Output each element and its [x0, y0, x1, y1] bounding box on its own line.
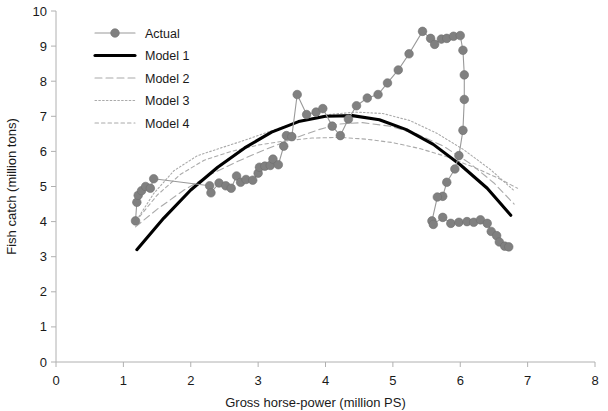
legend-marker	[111, 29, 120, 38]
data-point	[374, 90, 383, 99]
data-point	[456, 31, 465, 40]
legend-label: Model 2	[145, 72, 190, 86]
legend-item-model-4[interactable]: Model 4	[95, 117, 190, 131]
data-point	[433, 193, 442, 202]
data-point	[302, 110, 311, 119]
data-point	[336, 131, 345, 140]
data-point	[274, 160, 283, 169]
x-tick-label: 1	[120, 373, 127, 388]
data-point	[288, 132, 297, 141]
data-point	[418, 27, 427, 36]
data-point	[455, 218, 464, 227]
data-point	[383, 79, 392, 88]
data-point	[483, 219, 492, 228]
y-tick-label: 2	[40, 284, 47, 299]
data-point	[455, 151, 464, 160]
y-tick-label: 6	[40, 144, 47, 159]
legend-label: Actual	[145, 27, 180, 41]
x-tick-label: 7	[524, 373, 531, 388]
series-line	[136, 31, 509, 247]
data-point	[460, 71, 469, 80]
y-tick-label: 10	[33, 4, 47, 19]
x-axis-title: Gross horse-power (million PS)	[225, 395, 406, 410]
data-point	[352, 101, 361, 110]
y-tick-label: 0	[40, 355, 47, 370]
x-tick-label: 3	[255, 373, 262, 388]
data-point	[279, 142, 288, 151]
legend-item-actual[interactable]: Actual	[95, 27, 180, 41]
data-point	[149, 174, 158, 183]
data-point	[504, 243, 513, 252]
x-tick-label: 5	[389, 373, 396, 388]
y-tick-label: 4	[40, 214, 47, 229]
y-tick-label: 8	[40, 74, 47, 89]
data-point	[459, 46, 468, 55]
y-tick-label: 3	[40, 249, 47, 264]
data-point	[319, 104, 328, 113]
y-tick-label: 5	[40, 179, 47, 194]
chart-container: 012345678910012345678Gross horse-power (…	[0, 0, 608, 411]
data-point	[442, 178, 451, 187]
data-point	[146, 184, 155, 193]
scatter-line-chart: 012345678910012345678Gross horse-power (…	[0, 0, 608, 411]
data-point	[429, 220, 438, 229]
data-point	[438, 213, 447, 222]
data-point	[293, 90, 302, 99]
data-point	[227, 184, 236, 193]
data-point	[405, 50, 414, 59]
data-point	[447, 219, 456, 228]
data-point	[131, 217, 140, 226]
legend-label: Model 3	[145, 94, 190, 108]
legend-item-model-3[interactable]: Model 3	[95, 94, 190, 108]
series-model-1	[137, 116, 511, 250]
data-point	[460, 95, 469, 104]
y-tick-label: 9	[40, 39, 47, 54]
x-tick-label: 0	[52, 373, 59, 388]
legend-label: Model 1	[145, 49, 190, 63]
x-tick-label: 2	[187, 373, 194, 388]
data-point	[459, 126, 468, 135]
data-point	[363, 94, 372, 103]
data-point	[207, 189, 216, 198]
y-tick-label: 1	[40, 319, 47, 334]
x-tick-label: 8	[591, 373, 598, 388]
legend-item-model-1[interactable]: Model 1	[95, 49, 190, 63]
x-tick-label: 4	[322, 373, 329, 388]
legend-item-model-2[interactable]: Model 2	[95, 72, 190, 86]
data-point	[328, 122, 337, 131]
legend-label: Model 4	[145, 117, 190, 131]
y-tick-label: 7	[40, 109, 47, 124]
data-point	[451, 165, 460, 174]
y-axis-title: Fish catch (million tons)	[4, 118, 19, 255]
series-line	[137, 116, 511, 250]
x-tick-label: 6	[457, 373, 464, 388]
data-point	[248, 176, 257, 185]
data-point	[344, 115, 353, 124]
data-point	[394, 66, 403, 75]
